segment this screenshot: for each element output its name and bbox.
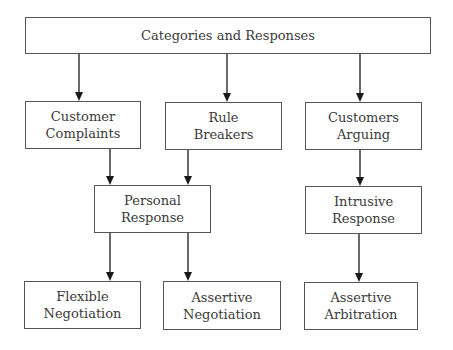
node-label-line: Flexible [56, 288, 109, 305]
arrowhead-icon [106, 272, 114, 281]
node-label-line: Complaints [46, 125, 121, 142]
node-label-line: Customer [51, 108, 115, 125]
arrowhead-icon [184, 272, 192, 281]
node-label-line: Arbitration [325, 306, 398, 323]
node-label-line: Personal [124, 192, 181, 209]
arrow-root-to-customer-complaints [75, 54, 83, 101]
node-rule-breakers: RuleBreakers [165, 102, 282, 150]
node-label-line: Negotiation [183, 306, 261, 323]
arrow-personal-response-to-flexible-negotiation [106, 233, 114, 281]
arrowhead-icon [184, 176, 192, 185]
arrow-root-to-rule-breakers [223, 54, 231, 102]
node-assertive-arbitration: AssertiveArbitration [304, 282, 418, 330]
node-label-line: Assertive [191, 289, 252, 306]
node-customer-complaints: CustomerComplaints [25, 101, 141, 149]
arrowhead-icon [356, 93, 364, 102]
arrowhead-icon [106, 176, 114, 185]
node-label-line: Arguing [337, 126, 390, 143]
arrow-customer-complaints-to-personal-response [106, 149, 114, 185]
node-label-line: Intrusive [334, 193, 393, 210]
arrow-customers-arguing-to-intrusive-response [356, 150, 364, 186]
arrowhead-icon [356, 177, 364, 186]
node-root: Categories and Responses [25, 17, 431, 54]
node-label-line: Breakers [194, 126, 254, 143]
arrow-intrusive-response-to-assertive-arbitration [355, 234, 363, 282]
node-flexible-negotiation: FlexibleNegotiation [24, 281, 141, 329]
arrowhead-icon [223, 93, 231, 102]
node-label-line: Response [332, 210, 395, 227]
arrow-root-to-customers-arguing [356, 54, 364, 102]
node-personal-response: PersonalResponse [94, 185, 211, 233]
arrow-personal-response-to-assertive-negotiation [184, 233, 192, 281]
arrowhead-icon [355, 273, 363, 282]
node-intrusive-response: IntrusiveResponse [305, 186, 422, 234]
arrowhead-icon [75, 92, 83, 101]
node-label-line: Negotiation [44, 305, 122, 322]
node-label-line: Rule [208, 109, 238, 126]
node-assertive-negotiation: AssertiveNegotiation [163, 281, 281, 330]
node-label-line: Response [121, 209, 184, 226]
arrow-rule-breakers-to-personal-response [184, 150, 192, 185]
node-label-line: Categories and Responses [141, 27, 315, 44]
node-label-line: Customers [328, 109, 399, 126]
node-label-line: Assertive [330, 289, 391, 306]
node-customers-arguing: CustomersArguing [305, 102, 422, 150]
